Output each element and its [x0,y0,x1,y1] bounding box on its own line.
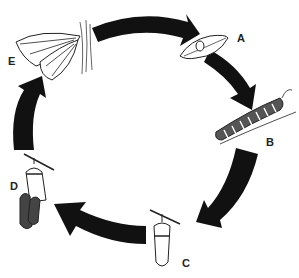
stage-label-c: C [182,257,190,269]
stage-label-e: E [8,55,15,67]
caterpillar-illustration [216,90,296,144]
stage-label-d: D [10,180,18,192]
stage-label-a: A [237,32,245,44]
arrow-d-to-e [13,76,46,150]
arrow-e-to-a [92,14,200,46]
chrysalis-illustration [150,210,180,266]
butterfly-illustration [16,20,92,80]
stage-label-b: B [266,136,274,148]
arrow-c-to-d [54,202,146,244]
emerging-butterfly-illustration [20,154,54,229]
arrow-a-to-b [204,50,256,110]
arrow-b-to-c [196,148,258,228]
life-cycle-diagram [0,0,299,278]
